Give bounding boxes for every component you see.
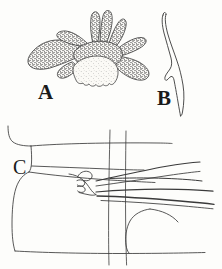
panel-c-process-mid-lower xyxy=(96,189,213,192)
panel-c-upper-left-curl xyxy=(8,126,31,146)
panel-c-vertical-line-left xyxy=(109,130,110,265)
panel-c-upper-margin xyxy=(31,143,172,146)
panel-label-a: A xyxy=(38,82,53,103)
panel-c-left-segment-edge xyxy=(29,146,32,172)
panel-c-lower-body-outline xyxy=(12,172,29,251)
panel-label-c: C xyxy=(13,157,26,177)
illustration-plate: A B C xyxy=(0,0,222,269)
panel-c-lower-body-base xyxy=(15,251,205,254)
plate-artwork xyxy=(0,0,222,269)
panel-c-hook-finger-1 xyxy=(77,180,85,186)
panel-c-hook-finger-2 xyxy=(78,186,86,192)
panel-c-process-lower-edge xyxy=(101,201,213,209)
panel-a-group xyxy=(28,11,149,87)
panel-c-inner-lobe xyxy=(126,209,150,253)
panel-c-process-lower xyxy=(97,196,214,204)
panel-c-vertical-line-right xyxy=(126,131,127,265)
panel-c-inner-lobe-right xyxy=(150,209,178,222)
panel-label-b: B xyxy=(157,88,171,109)
panel-c-group xyxy=(8,126,214,265)
panel-a-basal-lobe xyxy=(73,56,118,86)
panel-c-mid-margin xyxy=(32,166,145,170)
